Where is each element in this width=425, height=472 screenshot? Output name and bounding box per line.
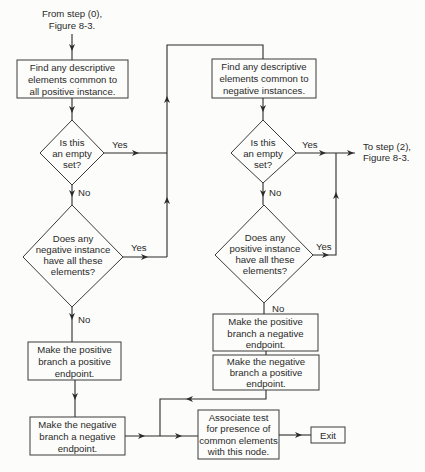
end-label: To step (2), Figure 8-3. (363, 141, 411, 163)
svg-text:elements common to: elements common to (28, 74, 117, 85)
no-label: No (78, 314, 90, 325)
svg-text:Find any descriptive: Find any descriptive (30, 62, 115, 73)
svg-text:Is this: Is this (59, 137, 84, 148)
neg-branch-neg-endpoint-box[interactable]: Make the negative branch a negative endp… (30, 417, 125, 455)
find-negative-box[interactable]: Find any descriptive elements common to … (212, 59, 316, 98)
pos-branch-neg-endpoint-box[interactable]: Make the positive branch a negative endp… (213, 314, 318, 351)
svg-text:Make the positive: Make the positive (37, 344, 112, 355)
svg-text:common elements: common elements (199, 435, 278, 446)
svg-text:all positive instance.: all positive instance. (30, 86, 116, 97)
start-label: From step (0), Figure 8-3. (42, 8, 102, 31)
svg-text:endpoint.: endpoint. (246, 339, 285, 350)
exit-box[interactable]: Exit (311, 427, 345, 443)
svg-text:an empty: an empty (52, 148, 92, 159)
svg-text:branch a negative: branch a negative (227, 328, 303, 339)
no-label: No (269, 187, 281, 198)
svg-text:Find any descriptive: Find any descriptive (221, 61, 306, 72)
svg-text:Associate test: Associate test (209, 412, 269, 423)
no-label: No (78, 187, 90, 198)
svg-text:elements?: elements? (243, 265, 287, 276)
find-positive-box[interactable]: Find any descriptive elements common to … (17, 60, 128, 98)
negative-has-all-decision[interactable]: Does any negative instance have all thes… (23, 205, 123, 307)
svg-text:negative instance: negative instance (36, 244, 111, 255)
yes-label: Yes (112, 139, 128, 150)
pos-branch-pos-endpoint-box[interactable]: Make the positive branch a positive endp… (28, 342, 121, 380)
svg-text:set?: set? (63, 159, 81, 170)
svg-text:elements?: elements? (51, 266, 95, 277)
svg-text:negative instances.: negative instances. (223, 85, 305, 96)
associate-test-box[interactable]: Associate test for presence of common el… (198, 410, 279, 459)
svg-text:To step (2),: To step (2), (363, 141, 411, 152)
svg-text:endpoint.: endpoint. (58, 443, 97, 454)
svg-text:for presence of: for presence of (207, 423, 271, 434)
neg-branch-pos-endpoint-box[interactable]: Make the negative branch a positive endp… (213, 355, 319, 390)
empty-set-right-decision[interactable]: Is this an empty set? (231, 120, 296, 183)
flowchart: From step (0), Figure 8-3. Find any desc… (0, 0, 425, 472)
svg-text:Make the negative: Make the negative (227, 356, 305, 367)
no-label: No (272, 303, 284, 314)
connector (313, 153, 336, 255)
svg-text:with this node.: with this node. (207, 446, 269, 457)
svg-text:elements common to: elements common to (219, 73, 308, 84)
svg-text:an empty: an empty (243, 148, 283, 159)
svg-text:Make the positive: Make the positive (228, 316, 303, 327)
svg-text:Make the negative: Make the negative (38, 419, 116, 430)
svg-text:branch a negative: branch a negative (39, 431, 115, 442)
svg-text:Does any: Does any (53, 233, 94, 244)
svg-text:Figure 8-3.: Figure 8-3. (363, 152, 409, 163)
yes-label: Yes (302, 139, 318, 150)
positive-has-all-decision[interactable]: Does any positive instance have all thes… (215, 205, 313, 303)
svg-text:Exit: Exit (320, 430, 336, 441)
yes-label: Yes (316, 241, 332, 252)
svg-text:endpoint.: endpoint. (55, 368, 94, 379)
svg-text:From step (0),: From step (0), (42, 8, 102, 19)
svg-text:have all these: have all these (235, 254, 294, 265)
svg-text:positive instance: positive instance (230, 243, 301, 254)
empty-set-left-decision[interactable]: Is this an empty set? (40, 120, 104, 185)
yes-label: Yes (131, 242, 147, 253)
svg-text:Figure 8-3.: Figure 8-3. (49, 20, 95, 31)
svg-text:branch a positive: branch a positive (230, 367, 303, 378)
svg-text:branch a positive: branch a positive (38, 356, 111, 367)
svg-text:set?: set? (254, 159, 272, 170)
svg-text:Does any: Does any (245, 232, 286, 243)
svg-text:have all these: have all these (43, 255, 102, 266)
svg-text:Is this: Is this (250, 137, 275, 148)
svg-text:endpoint.: endpoint. (246, 378, 285, 389)
